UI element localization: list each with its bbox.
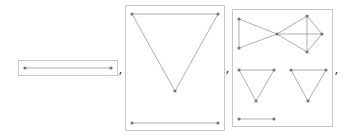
graph-edge [307, 34, 322, 52]
graph-vertex [272, 117, 275, 120]
graph-edge [175, 14, 218, 91]
graph-edge [239, 34, 277, 48]
graph-vertex [237, 46, 240, 49]
graph-vertex [254, 99, 257, 102]
graph-edge [256, 70, 274, 101]
graph-vertex [272, 68, 275, 71]
graph-2 [130, 12, 219, 124]
graph-vertex [216, 12, 219, 15]
graph-vertex [306, 99, 309, 102]
graph-vertex [23, 66, 26, 69]
graph-vertex [305, 50, 308, 53]
graph-1 [23, 66, 112, 69]
graph-edge [291, 70, 308, 101]
graph-vertex [173, 89, 176, 92]
graph-vertex [237, 117, 240, 120]
graph-3 [237, 14, 327, 120]
graph-vertex [237, 68, 240, 71]
graph-vertex [305, 14, 308, 17]
graph-vertex [275, 32, 278, 35]
graph-edge [132, 14, 175, 91]
graph-vertex [216, 121, 219, 124]
graph-edge [307, 16, 322, 34]
graph-vertex [130, 12, 133, 15]
graph-drawings [0, 0, 350, 136]
graph-edge [239, 19, 277, 34]
graph-edge [308, 70, 326, 101]
graph-vertex [289, 68, 292, 71]
graph-edge [239, 70, 256, 101]
graph-vertex [109, 66, 112, 69]
graph-vertex [130, 121, 133, 124]
graph-vertex [324, 68, 327, 71]
graph-edge [277, 16, 307, 34]
graph-vertex [237, 17, 240, 20]
graph-vertex [320, 32, 323, 35]
graph-edge [277, 34, 307, 52]
